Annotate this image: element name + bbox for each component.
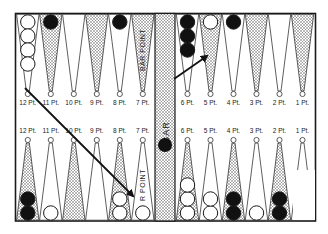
black-checker[interactable] bbox=[44, 15, 58, 29]
point-tip-marker bbox=[277, 137, 282, 142]
bar bbox=[155, 14, 175, 222]
white-checker[interactable] bbox=[113, 192, 127, 206]
white-checker[interactable] bbox=[21, 29, 35, 43]
bar-checker-black[interactable] bbox=[158, 138, 172, 152]
white-checker[interactable] bbox=[180, 206, 194, 220]
point-label: 11 Pt. bbox=[43, 99, 60, 106]
bar-point-label: R POINT bbox=[139, 169, 146, 201]
black-checker[interactable] bbox=[21, 206, 35, 220]
white-checker[interactable] bbox=[249, 206, 263, 220]
white-checker[interactable] bbox=[136, 206, 150, 220]
point-tip-marker bbox=[208, 91, 213, 96]
point-tip-marker bbox=[300, 137, 305, 142]
point-label: 1 Pt. bbox=[296, 127, 310, 134]
point-label: 9 Pt. bbox=[90, 127, 104, 134]
white-checker[interactable] bbox=[21, 43, 35, 57]
point-label: 8 Pt. bbox=[113, 127, 127, 134]
point-label: 3 Pt. bbox=[250, 127, 264, 134]
point-label: 4 Pt. bbox=[227, 127, 241, 134]
white-checker[interactable] bbox=[21, 15, 35, 29]
black-checker[interactable] bbox=[226, 15, 240, 29]
point-label: 11 Pt. bbox=[43, 127, 60, 134]
black-checker[interactable] bbox=[180, 43, 194, 57]
white-checker[interactable] bbox=[180, 192, 194, 206]
white-checker[interactable] bbox=[203, 15, 217, 29]
highlight-region bbox=[293, 170, 315, 220]
black-checker[interactable] bbox=[272, 206, 286, 220]
white-checker[interactable] bbox=[113, 206, 127, 220]
black-checker[interactable] bbox=[180, 15, 194, 29]
point-label: 2 Pt. bbox=[273, 127, 287, 134]
point-tip-marker bbox=[48, 91, 53, 96]
white-checker[interactable] bbox=[21, 57, 35, 71]
point-label: 9 Pt. bbox=[90, 99, 104, 106]
backgammon-board: 12 Pt.11 Pt.10 Pt.9 Pt.8 Pt.7 Pt.BAR POI… bbox=[0, 0, 328, 234]
point-tip-marker bbox=[254, 91, 259, 96]
point-label: 12 Pt. bbox=[19, 127, 36, 134]
bar-point-label: BAR POINT bbox=[139, 29, 146, 71]
point-tip-marker bbox=[300, 91, 305, 96]
point-tip-marker bbox=[71, 91, 76, 96]
point-tip-marker bbox=[48, 137, 53, 142]
point-label: 7 Pt. bbox=[136, 99, 150, 106]
point-label: 6 Pt. bbox=[181, 99, 195, 106]
point-tip-marker bbox=[25, 137, 30, 142]
point-label: 2 Pt. bbox=[273, 99, 287, 106]
point-label: 5 Pt. bbox=[204, 99, 218, 106]
point-label: 4 Pt. bbox=[227, 99, 241, 106]
point-tip-marker bbox=[140, 91, 145, 96]
black-checker[interactable] bbox=[21, 192, 35, 206]
point-label: 3 Pt. bbox=[250, 99, 264, 106]
point-tip-marker bbox=[277, 91, 282, 96]
point-label: 10 Pt. bbox=[65, 99, 82, 106]
point-label: 12 Pt. bbox=[19, 99, 36, 106]
point-tip-marker bbox=[117, 91, 122, 96]
black-checker[interactable] bbox=[272, 192, 286, 206]
point-label: 1 Pt. bbox=[296, 99, 310, 106]
black-checker[interactable] bbox=[226, 206, 240, 220]
point-tip-marker bbox=[94, 137, 99, 142]
point-label: 5 Pt. bbox=[204, 127, 218, 134]
point-label: 7 Pt. bbox=[136, 127, 150, 134]
point-tip-marker bbox=[231, 137, 236, 142]
black-checker[interactable] bbox=[226, 192, 240, 206]
black-checker[interactable] bbox=[180, 29, 194, 43]
point-tip-marker bbox=[254, 137, 259, 142]
point-tip-marker bbox=[140, 137, 145, 142]
point-tip-marker bbox=[185, 91, 190, 96]
white-checker[interactable] bbox=[44, 206, 58, 220]
point-tip-marker bbox=[117, 137, 122, 142]
black-checker[interactable] bbox=[113, 15, 127, 29]
white-checker[interactable] bbox=[203, 206, 217, 220]
point-tip-marker bbox=[94, 91, 99, 96]
white-checker[interactable] bbox=[203, 192, 217, 206]
point-tip-marker bbox=[208, 137, 213, 142]
point-tip-marker bbox=[231, 91, 236, 96]
point-label: 6 Pt. bbox=[181, 127, 195, 134]
white-checker[interactable] bbox=[180, 178, 194, 192]
point-label: 8 Pt. bbox=[113, 99, 127, 106]
point-tip-marker bbox=[185, 137, 190, 142]
